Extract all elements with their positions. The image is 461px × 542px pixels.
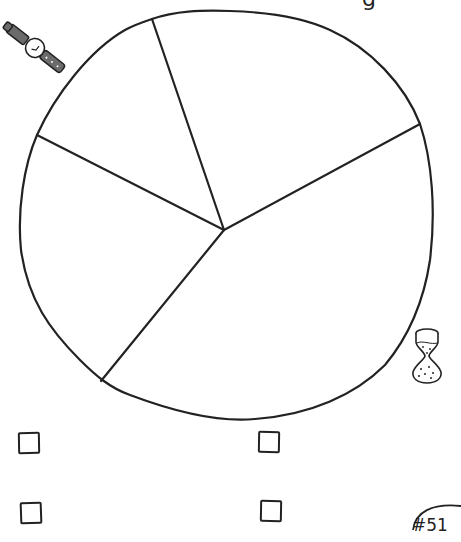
legend-checkbox-3[interactable] (20, 502, 43, 525)
page-number: #51 (412, 515, 448, 535)
pie-outline (20, 11, 433, 420)
wristwatch-icon (0, 17, 68, 77)
legend-checkbox-2[interactable] (258, 431, 280, 453)
legend-checkbox-1[interactable] (18, 432, 40, 454)
hourglass-icon (413, 329, 441, 383)
legend-checkbox-4[interactable] (260, 500, 282, 522)
pie-chart (0, 0, 461, 542)
